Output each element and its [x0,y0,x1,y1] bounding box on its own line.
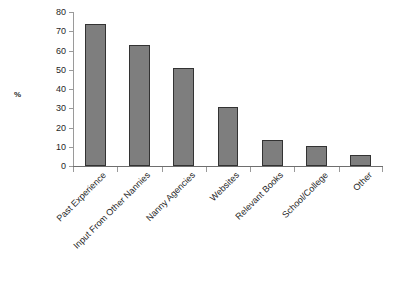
bar [262,140,283,166]
y-tick-label: 70 [56,26,66,36]
bar [85,24,106,166]
plot-area: 80706050403020100 [73,12,383,167]
y-tick-mark [69,147,73,148]
x-tick-label: Websites [208,170,241,203]
y-tick-label: 80 [56,7,66,17]
bar [350,155,371,166]
y-tick-mark [69,51,73,52]
x-tick-label: Other [351,170,374,193]
y-tick-label: 50 [56,65,66,75]
y-axis-label: % [14,90,21,99]
bars-layer [73,12,383,167]
y-tick-label: 60 [56,46,66,56]
bar-chart: % 80706050403020100 Past ExperienceInput… [0,0,413,296]
y-tick-label: 30 [56,103,66,113]
y-tick-mark [69,31,73,32]
x-tick-label: Input From Other Nannies [72,170,153,251]
y-tick-mark [69,70,73,71]
bar [218,107,239,166]
x-tick-label: Relevant Books [234,170,286,222]
y-tick-label: 10 [56,142,66,152]
y-tick-mark [69,89,73,90]
y-tick-label: 0 [61,161,66,171]
x-tick-label: Nanny Agencies [144,170,197,223]
bar [129,45,150,166]
y-tick-mark [69,128,73,129]
y-tick-mark [69,12,73,13]
x-tick-label: School/College [280,170,330,220]
y-tick-label: 40 [56,84,66,94]
chart-title [0,0,413,3]
x-axis-labels: Past ExperienceInput From Other NanniesN… [73,170,413,296]
bar [173,68,194,166]
bar [306,146,327,166]
y-tick-label: 20 [56,123,66,133]
y-tick-mark [69,108,73,109]
